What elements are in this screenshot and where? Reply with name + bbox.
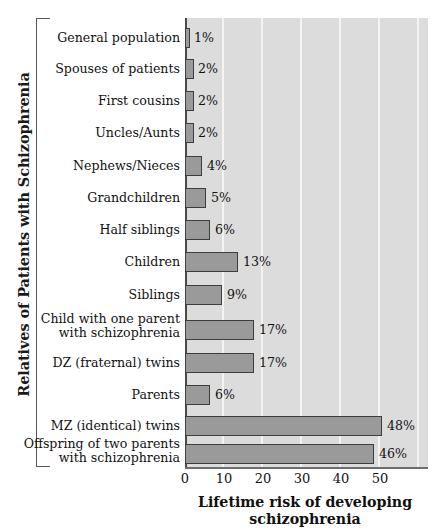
category-label: Nephews/Nieces [73,159,180,173]
x-tick-label-30: 30 [282,471,322,486]
bar [185,252,238,272]
gridline-40 [339,18,341,467]
bar [185,444,374,464]
y-axis-bracket [36,18,50,467]
bar [185,188,206,208]
bar [185,353,254,373]
category-label: Offspring of two parents with schizophre… [24,437,180,465]
bar [185,156,202,176]
category-label: MZ (identical) twins [51,419,180,433]
bar [185,320,254,340]
bar-value-label: 6% [215,385,235,405]
category-label: DZ (fraternal) twins [53,356,181,370]
category-label-line2: with schizophrenia [24,451,180,465]
bar [185,416,382,436]
bar-value-label: 1% [194,28,214,48]
bar [185,59,194,79]
x-tick-label-0: 0 [165,471,205,486]
bar [185,220,210,240]
category-label: Spouses of patients [55,62,180,76]
x-axis-title: Lifetime risk of developing schizophreni… [160,494,438,528]
category-label: Siblings [129,288,180,302]
x-axis-title-line2: schizophrenia [160,511,438,528]
gridline-20 [261,18,263,467]
category-label-line1: Offspring of two parents [24,437,180,451]
gridline-60 [417,18,419,467]
bar-value-label: 48% [387,416,415,436]
bar-value-label: 2% [198,59,218,79]
category-label: First cousins [98,94,180,108]
bar [185,385,210,405]
x-tick-label-40: 40 [321,471,361,486]
x-tick-label-10: 10 [204,471,244,486]
x-axis-title-line1: Lifetime risk of developing [160,494,438,511]
bar [185,123,194,143]
bar [185,285,222,305]
category-label: Child with one parent with schizophrenia [41,312,180,340]
bar [185,28,190,48]
x-tick-label-20: 20 [243,471,283,486]
category-label: Grandchildren [87,191,180,205]
y-axis-title: Relatives of Patients with Schizophrenia [15,5,32,465]
bar-value-label: 17% [259,320,287,340]
category-label: Uncles/Aunts [95,126,180,140]
bar-chart: Relatives of Patients with Schizophrenia… [0,0,438,532]
bar-value-label: 4% [207,156,227,176]
bar-value-label: 6% [215,220,235,240]
category-label: Half siblings [100,223,180,237]
bar-value-label: 9% [227,285,247,305]
category-label: Children [125,255,180,269]
bar-value-label: 2% [198,91,218,111]
category-label-line2: with schizophrenia [41,326,180,340]
gridline-50 [378,18,380,467]
category-label: Parents [131,388,180,402]
bar-value-label: 17% [259,353,287,373]
gridline-30 [300,18,302,467]
bar-value-label: 46% [379,444,407,464]
bar [185,91,194,111]
bar-value-label: 13% [243,252,271,272]
category-label-line1: Child with one parent [41,312,180,326]
x-tick-label-50: 50 [360,471,400,486]
bar-value-label: 5% [211,188,231,208]
x-axis-line [185,467,428,469]
category-label: General population [57,31,180,45]
bar-value-label: 2% [198,123,218,143]
